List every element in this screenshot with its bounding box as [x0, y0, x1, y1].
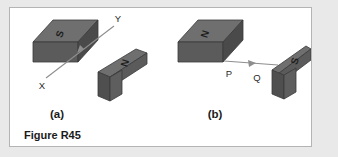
right-magnet-b: S — [272, 46, 311, 99]
figure-illustration: S X Y — [10, 8, 311, 146]
label-x: X — [39, 80, 46, 91]
arrow-p-to-q — [224, 60, 278, 67]
right-magnet-b-end-face — [272, 70, 284, 99]
label-y: Y — [115, 13, 122, 24]
arrow-p-to-q-head — [248, 60, 256, 67]
label-q: Q — [253, 72, 260, 83]
figure-card: S X Y — [9, 7, 312, 147]
figure-caption: Figure R45 — [24, 129, 81, 141]
panel-b: N P Q S (b) — [178, 20, 311, 120]
right-magnet-a-end-face — [98, 72, 110, 101]
figure-page: S X Y — [0, 0, 338, 157]
label-p: P — [226, 68, 232, 79]
panel-a: S X Y — [33, 13, 147, 120]
left-magnet-a: S — [33, 20, 98, 62]
right-magnet-a: N — [98, 49, 147, 101]
left-magnet-b: N — [178, 20, 243, 62]
panel-b-label: (b) — [208, 108, 223, 120]
left-magnet-b-front-face — [178, 42, 223, 62]
panel-a-label: (a) — [50, 108, 64, 120]
